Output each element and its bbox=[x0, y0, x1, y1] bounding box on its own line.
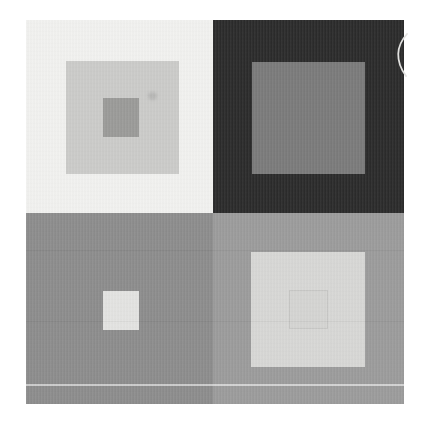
scan-scratch-arc bbox=[391, 30, 411, 80]
bottom-right-faint-inner-square bbox=[289, 290, 328, 329]
quadrant-top-left bbox=[26, 20, 213, 213]
scanned-figure-page bbox=[0, 0, 426, 422]
scan-band-line bbox=[26, 250, 404, 251]
quadrant-bottom-left bbox=[26, 213, 213, 404]
scan-smudge-spot bbox=[148, 92, 157, 100]
scratch-arc-path bbox=[398, 34, 407, 76]
top-left-outer-square bbox=[66, 61, 179, 174]
quadrant-top-right bbox=[213, 20, 404, 214]
bottom-left-inner-square bbox=[103, 291, 139, 330]
scan-scratch-line bbox=[26, 384, 404, 386]
top-left-inner-square bbox=[103, 98, 139, 137]
scan-band-line bbox=[26, 321, 404, 322]
bottom-right-outer-square bbox=[251, 252, 365, 367]
top-right-inner-square bbox=[252, 62, 365, 174]
quadrant-bottom-right bbox=[213, 213, 404, 404]
